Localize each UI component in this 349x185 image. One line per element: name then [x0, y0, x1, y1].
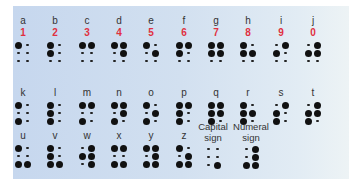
braille-dots — [142, 41, 160, 65]
raised-dot-icon — [110, 101, 119, 109]
flat-dot-icon — [87, 57, 96, 65]
raised-dot-icon — [14, 117, 23, 125]
flat-dot-icon — [142, 109, 151, 117]
flat-dot-icon — [119, 117, 128, 125]
raised-dot-icon — [110, 117, 119, 125]
braille-cell-w: w — [72, 130, 102, 168]
flat-dot-icon — [213, 153, 222, 161]
flat-dot-icon — [78, 144, 87, 152]
raised-dot-icon — [216, 101, 225, 109]
flat-dot-icon — [248, 41, 257, 49]
flat-dot-icon — [313, 57, 322, 65]
flat-dot-icon — [23, 152, 32, 160]
raised-dot-icon — [14, 101, 23, 109]
raised-dot-icon — [119, 144, 128, 152]
numeral-label: 8 — [233, 27, 263, 39]
raised-dot-icon — [304, 49, 313, 57]
flat-dot-icon — [78, 109, 87, 117]
raised-dot-icon — [313, 49, 322, 57]
letter-label: t — [298, 87, 328, 99]
braille-cell-u: u — [8, 130, 38, 168]
letter-label: y — [136, 130, 166, 142]
raised-dot-icon — [119, 109, 128, 117]
flat-dot-icon — [55, 109, 64, 117]
raised-dot-icon — [216, 109, 225, 117]
flat-dot-icon — [14, 152, 23, 160]
braille-dots — [78, 101, 96, 125]
raised-dot-icon — [248, 109, 257, 117]
braille-cell-s: s — [266, 87, 296, 125]
flat-dot-icon — [281, 57, 290, 65]
flat-dot-icon — [55, 41, 64, 49]
raised-dot-icon — [142, 160, 151, 168]
letter-label: w — [72, 130, 102, 142]
raised-dot-icon — [142, 41, 151, 49]
flat-dot-icon — [55, 144, 64, 152]
braille-cell-numeral-sign: Numeralsign — [229, 121, 273, 169]
letter-label: l — [40, 87, 70, 99]
flat-dot-icon — [23, 57, 32, 65]
flat-dot-icon — [242, 145, 251, 153]
sign-label: Numeral — [229, 121, 273, 132]
letter-label: i — [266, 15, 296, 27]
flat-dot-icon — [213, 145, 222, 153]
braille-cell-k: k — [8, 87, 38, 125]
flat-dot-icon — [281, 49, 290, 57]
braille-dots — [14, 41, 32, 65]
braille-dots — [78, 41, 96, 65]
braille-cell-h: h8 — [233, 15, 263, 65]
raised-dot-icon — [151, 109, 160, 117]
flat-dot-icon — [119, 57, 128, 65]
raised-dot-icon — [119, 101, 128, 109]
raised-dot-icon — [239, 41, 248, 49]
flat-dot-icon — [175, 57, 184, 65]
letter-label: n — [104, 87, 134, 99]
flat-dot-icon — [87, 117, 96, 125]
braille-cell-i: i9 — [266, 15, 296, 65]
letter-label: c — [72, 15, 102, 27]
numeral-label: 5 — [136, 27, 166, 39]
flat-dot-icon — [204, 153, 213, 161]
numeral-label: 1 — [8, 27, 38, 39]
braille-cell-m: m — [72, 87, 102, 125]
flat-dot-icon — [313, 117, 322, 125]
raised-dot-icon — [14, 144, 23, 152]
letter-label: v — [40, 130, 70, 142]
braille-dots — [46, 144, 64, 168]
letter-label: f — [169, 15, 199, 27]
braille-dots — [46, 41, 64, 65]
flat-dot-icon — [55, 117, 64, 125]
flat-dot-icon — [78, 49, 87, 57]
flat-dot-icon — [46, 57, 55, 65]
flat-dot-icon — [14, 49, 23, 57]
letter-label: k — [8, 87, 38, 99]
braille-dots — [207, 41, 225, 65]
braille-dots — [14, 101, 32, 125]
flat-dot-icon — [304, 101, 313, 109]
raised-dot-icon — [184, 41, 193, 49]
sign-label: sign — [229, 132, 273, 143]
letter-label: m — [72, 87, 102, 99]
letter-label: e — [136, 15, 166, 27]
raised-dot-icon — [239, 101, 248, 109]
raised-dot-icon — [151, 144, 160, 152]
raised-dot-icon — [151, 49, 160, 57]
braille-dots — [175, 41, 193, 65]
braille-cell-e: e5 — [136, 15, 166, 65]
braille-cell-y: y — [136, 130, 166, 168]
flat-dot-icon — [281, 117, 290, 125]
raised-dot-icon — [110, 41, 119, 49]
flat-dot-icon — [204, 161, 213, 169]
flat-dot-icon — [151, 57, 160, 65]
raised-dot-icon — [87, 152, 96, 160]
raised-dot-icon — [175, 49, 184, 57]
flat-dot-icon — [55, 152, 64, 160]
braille-dots — [304, 101, 322, 125]
letter-label: u — [8, 130, 38, 142]
braille-dots — [14, 144, 32, 168]
braille-dots — [110, 144, 128, 168]
raised-dot-icon — [304, 109, 313, 117]
braille-cell-d: d4 — [104, 15, 134, 65]
flat-dot-icon — [142, 49, 151, 57]
raised-dot-icon — [242, 161, 251, 169]
